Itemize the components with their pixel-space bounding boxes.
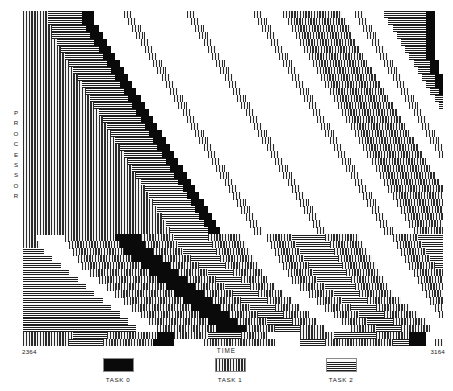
- y-axis-label-letter: E: [14, 150, 18, 160]
- x-axis-label: TIME: [0, 347, 453, 354]
- y-axis-label-letter: R: [14, 191, 18, 201]
- task-segment: [69, 339, 103, 346]
- task-segment: [325, 339, 392, 346]
- task-segment: [23, 339, 69, 346]
- legend-swatch-task-0: [103, 358, 134, 372]
- plot-area: [23, 11, 443, 346]
- y-axis-label-letter: O: [14, 181, 19, 191]
- task-segment: [300, 339, 325, 346]
- task-segment: [153, 339, 174, 346]
- legend-swatch-task-1: [215, 358, 246, 372]
- task-segment: [409, 339, 426, 346]
- legend-label-task-1: TASK 1: [218, 376, 242, 383]
- legend-label-task-0: TASK 0: [106, 376, 130, 383]
- y-axis-label-letter: R: [14, 118, 18, 128]
- y-axis-label-letter: S: [14, 160, 18, 170]
- legend: TASK 0 TASK 1 TASK 2: [0, 358, 453, 388]
- y-axis-label-letter: P: [14, 108, 18, 118]
- task-segment: [393, 339, 410, 346]
- task-segment: [435, 339, 443, 346]
- y-axis-label: PROCESSOR: [10, 108, 22, 202]
- legend-item-task-1: TASK 1: [186, 358, 274, 383]
- y-axis-label-letter: S: [14, 170, 18, 180]
- task-segment: [103, 339, 153, 346]
- processor-row: [23, 339, 443, 346]
- legend-item-task-0: TASK 0: [74, 358, 162, 383]
- legend-label-task-2: TASK 2: [329, 376, 353, 383]
- y-axis-label-letter: C: [14, 139, 18, 149]
- y-axis-label-letter: O: [14, 129, 19, 139]
- task-segment: [204, 339, 275, 346]
- legend-swatch-task-2: [326, 358, 357, 372]
- processor-task-gantt-chart: PROCESSOR 2364 3164 TIME TASK 0 TASK 1 T…: [0, 0, 453, 391]
- legend-item-task-2: TASK 2: [297, 358, 385, 383]
